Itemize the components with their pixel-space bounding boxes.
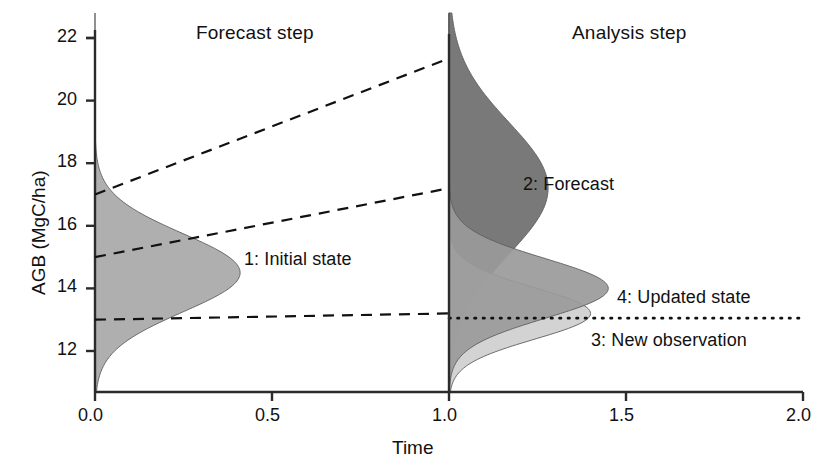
figure-container: Forecast step Analysis step 1: Initial s… (0, 0, 839, 469)
x-tick-0.0: 0.0 (78, 405, 103, 426)
x-tick-0.5: 0.5 (255, 405, 280, 426)
annotation-initial-state: 1: Initial state (244, 249, 352, 270)
x-tick-2.0: 2.0 (786, 405, 811, 426)
y-tick-12: 12 (57, 339, 77, 360)
y-axis-title: AGB (MgC/ha) (28, 170, 50, 295)
dashed-trajectory-1 (95, 58, 449, 194)
annotation-updated-state: 4: Updated state (617, 287, 751, 308)
y-tick-20: 20 (57, 89, 77, 110)
y-tick-22: 22 (57, 26, 77, 47)
y-tick-18: 18 (57, 151, 77, 172)
distribution-initial-state (95, 13, 240, 392)
x-axis-title: Time (392, 437, 434, 459)
annotation-forecast: 2: Forecast (523, 174, 614, 195)
x-tick-1.5: 1.5 (609, 405, 634, 426)
panel-title-forecast-step: Forecast step (196, 22, 314, 44)
y-tick-14: 14 (57, 276, 77, 297)
panel-title-analysis-step: Analysis step (572, 22, 687, 44)
plot-canvas (0, 0, 839, 469)
x-tick-1.0: 1.0 (432, 405, 457, 426)
y-tick-16: 16 (57, 214, 77, 235)
distribution-shapes (95, 13, 608, 392)
annotation-new-observation: 3: New observation (591, 330, 747, 351)
